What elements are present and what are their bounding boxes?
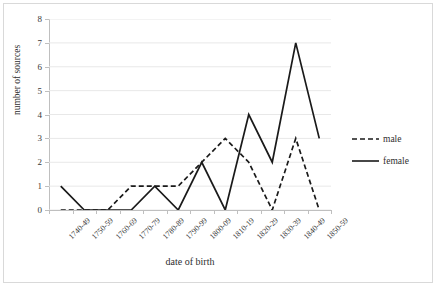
- legend-item-male[interactable]: male: [352, 128, 432, 150]
- y-axis-ticks: 012345678: [0, 19, 49, 210]
- x-axis-tick-labels: 1740-491750-591760-691770-791780-891790-…: [49, 214, 331, 254]
- x-tick-label: 1740-49: [67, 216, 92, 241]
- y-tick-label: 7: [38, 38, 43, 47]
- x-tick-label: 1840-49: [302, 216, 327, 241]
- chart-legend: male female: [352, 128, 432, 172]
- x-axis-title: date of birth: [49, 256, 331, 268]
- x-tick-label: 1790-99: [184, 216, 209, 241]
- legend-swatch-solid-icon: [352, 156, 379, 166]
- x-tick-label: 1820-29: [255, 216, 280, 241]
- x-tick-mark: [331, 210, 332, 214]
- y-tick-label: 5: [38, 86, 43, 95]
- y-tick-label: 0: [38, 206, 43, 215]
- legend-item-female[interactable]: female: [352, 150, 432, 172]
- y-tick-label: 1: [38, 182, 43, 191]
- y-tick-label: 4: [38, 110, 43, 119]
- legend-swatch-dashed-icon: [352, 134, 379, 144]
- x-tick-label: 1800-09: [208, 216, 233, 241]
- plot-svg: [49, 19, 331, 210]
- y-tick-label: 8: [38, 15, 43, 24]
- series-line-male: [61, 138, 320, 210]
- y-tick-label: 2: [38, 158, 43, 167]
- x-tick-label: 1810-19: [231, 216, 256, 241]
- chart-figure: number of sources 012345678 1740-491750-…: [0, 0, 437, 287]
- plot-area: [49, 19, 331, 210]
- x-tick-label: 1830-39: [278, 216, 303, 241]
- legend-label-female: female: [383, 156, 409, 166]
- x-tick-label: 1770-79: [137, 216, 162, 241]
- x-tick-label: 1760-69: [114, 216, 139, 241]
- x-tick-label: 1780-89: [161, 216, 186, 241]
- x-tick-label: 1750-59: [90, 216, 115, 241]
- legend-label-male: male: [383, 134, 401, 144]
- y-tick-label: 6: [38, 62, 43, 71]
- y-tick-label: 3: [38, 134, 43, 143]
